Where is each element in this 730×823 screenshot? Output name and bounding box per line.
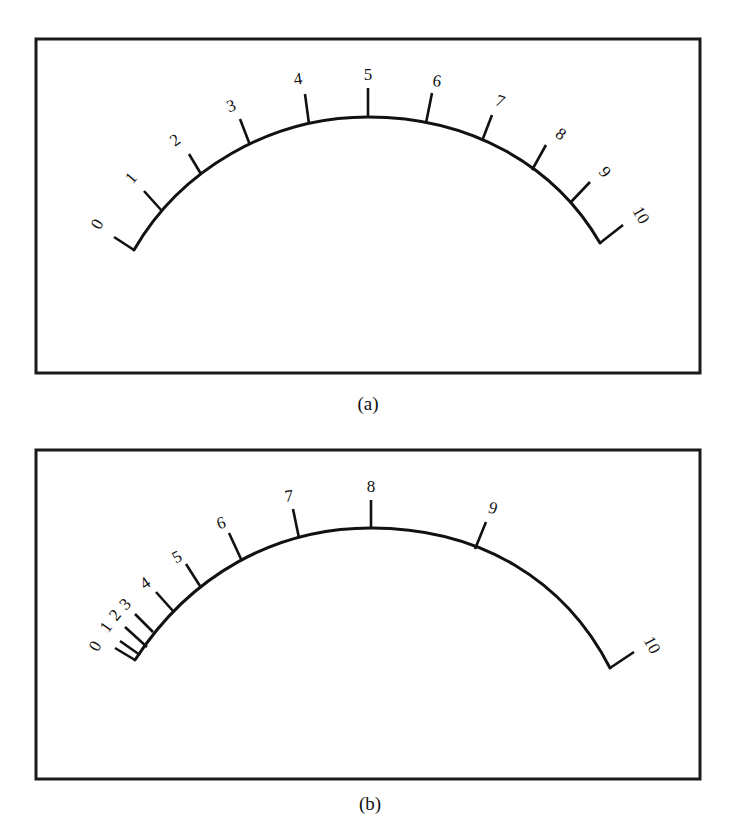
tick-label-5: 5	[169, 547, 185, 568]
tick-mark-2	[125, 627, 147, 647]
tick-mark-10	[610, 652, 634, 668]
tick-label-8: 8	[552, 124, 570, 144]
tick-mark-3	[240, 119, 250, 145]
tick-mark-10	[600, 225, 623, 243]
tick-label-4: 4	[136, 572, 154, 593]
tick-label-1: 1	[96, 618, 116, 636]
tick-label-7: 7	[493, 91, 508, 112]
tick-label-8: 8	[367, 477, 376, 496]
panel-a-caption: (a)	[357, 393, 378, 415]
tick-label-1: 1	[121, 169, 141, 188]
tick-label-10: 10	[640, 633, 665, 657]
panel-b-caption: (b)	[359, 793, 381, 815]
tick-label-0: 0	[85, 638, 106, 655]
tick-mark-9	[475, 522, 486, 549]
meter-scale-figure: 012345678910 (a) 012345678910 (b)	[0, 0, 730, 823]
tick-mark-6	[426, 93, 432, 123]
tick-label-6: 6	[214, 513, 228, 534]
tick-label-7: 7	[284, 486, 295, 506]
tick-label-9: 9	[595, 163, 615, 182]
tick-label-10: 10	[629, 203, 654, 227]
panel-b-scale-arc	[135, 528, 610, 668]
tick-label-4: 4	[292, 69, 304, 89]
tick-mark-6	[229, 533, 241, 559]
tick-mark-0	[114, 237, 134, 250]
panel-a-scale-arc	[134, 117, 600, 250]
panel-a-ticks: 012345678910	[87, 65, 654, 251]
tick-label-2: 2	[105, 606, 125, 625]
tick-mark-8	[532, 145, 546, 170]
tick-label-3: 3	[115, 594, 134, 613]
tick-label-5: 5	[364, 65, 373, 84]
panel-a-linear-scale: 012345678910 (a)	[36, 39, 700, 415]
tick-mark-5	[186, 564, 200, 586]
panel-b-ticks: 012345678910	[85, 477, 665, 669]
tick-mark-4	[305, 94, 309, 124]
panel-b-nonlinear-scale: 012345678910 (b)	[36, 450, 700, 815]
tick-mark-9	[570, 182, 590, 203]
tick-mark-2	[189, 154, 201, 174]
tick-label-3: 3	[224, 96, 238, 117]
tick-label-9: 9	[486, 498, 499, 519]
tick-label-2: 2	[166, 130, 184, 150]
tick-mark-7	[482, 115, 492, 141]
tick-mark-1	[144, 191, 162, 211]
tick-mark-4	[156, 592, 173, 611]
tick-mark-3	[135, 614, 153, 632]
tick-label-6: 6	[431, 71, 442, 91]
tick-mark-7	[293, 509, 299, 538]
tick-label-0: 0	[87, 216, 108, 233]
